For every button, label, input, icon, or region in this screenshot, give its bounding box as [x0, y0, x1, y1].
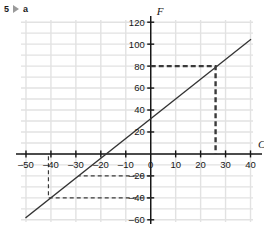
x-tick-label: 20	[195, 159, 206, 170]
x-tick-label: 30	[220, 159, 231, 170]
y-tick-label: 100	[129, 39, 145, 50]
celsius-fahrenheit-graph: –50–40–30–20–10010203040–60–40–202040608…	[0, 0, 264, 228]
y-tick-label: –60	[129, 214, 145, 225]
y-tick-label: 40	[134, 104, 145, 115]
x-tick-label: 40	[245, 159, 256, 170]
y-tick-label: 80	[134, 61, 145, 72]
x-tick-label: 10	[170, 159, 181, 170]
y-axis-label: F	[156, 5, 164, 17]
x-tick-label: –20	[93, 159, 109, 170]
plot-area: –50–40–30–20–10010203040–60–40–202040608…	[0, 0, 264, 228]
y-tick-label: –40	[129, 192, 145, 203]
y-tick-label: –20	[129, 170, 145, 181]
y-tick-label: 120	[129, 17, 145, 28]
chart-page: 5 a –50–40–30–20–10010203040–60–40–20204…	[0, 0, 264, 228]
x-tick-label: –50	[18, 159, 34, 170]
x-tick-label: –40	[43, 159, 59, 170]
x-tick-label: –30	[68, 159, 84, 170]
x-tick-label: 0	[148, 159, 153, 170]
x-tick-label: –10	[118, 159, 134, 170]
x-axis-label: C	[258, 138, 264, 150]
y-tick-label: 60	[134, 82, 145, 93]
y-tick-label: 20	[134, 126, 145, 137]
